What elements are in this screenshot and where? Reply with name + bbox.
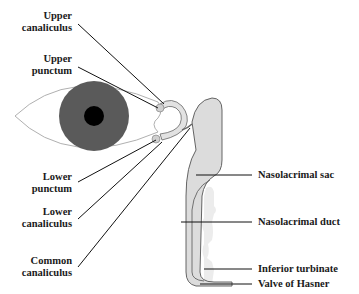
label-lower-punctum: Lower punctum — [0, 171, 72, 195]
label-text: Lower — [0, 171, 72, 183]
label-text: punctum — [0, 65, 72, 77]
label-text: Lower — [0, 206, 72, 218]
label-inferior-turbinate: Inferior turbinate — [258, 263, 338, 275]
label-upper-canaliculus: Upper canaliculus — [0, 10, 72, 34]
label-text: canaliculus — [0, 267, 72, 279]
pupil — [84, 106, 104, 126]
label-common-canaliculus: Common canaliculus — [0, 255, 72, 279]
label-valve-of-hasner: Valve of Hasner — [258, 278, 329, 290]
label-text: Common — [0, 255, 72, 267]
label-upper-punctum: Upper punctum — [0, 53, 72, 77]
label-text: canaliculus — [0, 218, 72, 230]
label-text: punctum — [0, 183, 72, 195]
lacrimal-diagram — [0, 0, 359, 294]
label-text: Upper — [0, 10, 72, 22]
leader-lower-canaliculus — [78, 142, 162, 219]
label-lower-canaliculus: Lower canaliculus — [0, 206, 72, 230]
label-text: Upper — [0, 53, 72, 65]
label-text: canaliculus — [0, 22, 72, 34]
label-nasolacrimal-duct: Nasolacrimal duct — [258, 216, 340, 228]
label-nasolacrimal-sac: Nasolacrimal sac — [258, 169, 334, 181]
canaliculi — [160, 100, 187, 140]
